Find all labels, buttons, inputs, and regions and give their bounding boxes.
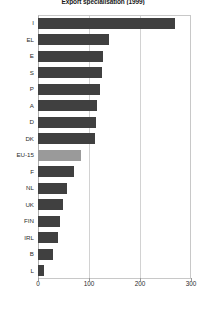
bar xyxy=(38,100,97,111)
bar-row xyxy=(38,34,191,45)
y-tick-label: F xyxy=(30,169,34,175)
bar-row xyxy=(38,216,191,227)
bar-row xyxy=(38,232,191,243)
y-tick-label: NL xyxy=(26,185,34,191)
x-tick-mark xyxy=(89,278,90,281)
y-tick-label: B xyxy=(30,251,34,257)
bar xyxy=(38,199,63,210)
y-tick-label: S xyxy=(30,70,34,76)
bar xyxy=(38,265,44,276)
x-tick-label: 200 xyxy=(135,281,146,287)
bar xyxy=(38,67,102,78)
y-axis-labels: I EL E S P A D DK EU-15 F NL UK FIN IRL … xyxy=(0,15,36,279)
bar-series xyxy=(38,15,191,279)
bar xyxy=(38,117,96,128)
bar xyxy=(38,166,74,177)
x-tick-label: 0 xyxy=(36,281,40,287)
y-tick-label: D xyxy=(30,119,34,125)
bar-row xyxy=(38,84,191,95)
y-tick-label: P xyxy=(30,86,34,92)
y-tick-label: L xyxy=(31,268,34,274)
x-axis-labels: 0 100 200 300 xyxy=(38,281,191,293)
y-tick-label: I xyxy=(32,20,34,26)
y-tick-label: EL xyxy=(26,37,34,43)
bar-row xyxy=(38,166,191,177)
bar xyxy=(38,150,81,161)
y-tick-label: DK xyxy=(25,136,34,142)
bar xyxy=(38,216,60,227)
x-tick-mark xyxy=(140,278,141,281)
x-tick-label: 300 xyxy=(186,281,197,287)
bar-row xyxy=(38,67,191,78)
bar xyxy=(38,84,100,95)
y-tick-label: IRL xyxy=(24,235,34,241)
y-tick-label: E xyxy=(30,53,34,59)
bar xyxy=(38,18,175,29)
chart-title: Export specialisation (1999) xyxy=(0,0,206,5)
bar xyxy=(38,51,103,62)
bar-row xyxy=(38,18,191,29)
bar-chart: Export specialisation (1999) I EL E S P … xyxy=(0,0,206,311)
y-tick-label: A xyxy=(30,103,34,109)
bar-row xyxy=(38,117,191,128)
y-tick-label: UK xyxy=(25,202,34,208)
x-tick-mark xyxy=(191,278,192,281)
bar-row xyxy=(38,199,191,210)
bar xyxy=(38,133,95,144)
bar-row xyxy=(38,100,191,111)
x-tick-mark xyxy=(38,278,39,281)
x-tick-label: 100 xyxy=(84,281,95,287)
bar xyxy=(38,183,67,194)
y-tick-label: EU-15 xyxy=(16,152,34,158)
y-tick-label: FIN xyxy=(24,218,34,224)
bar-row xyxy=(38,150,191,161)
bar xyxy=(38,232,58,243)
bar-row xyxy=(38,133,191,144)
bar-row xyxy=(38,249,191,260)
bar xyxy=(38,34,109,45)
bar-row xyxy=(38,51,191,62)
bar xyxy=(38,249,53,260)
bar-row xyxy=(38,265,191,276)
bar-row xyxy=(38,183,191,194)
